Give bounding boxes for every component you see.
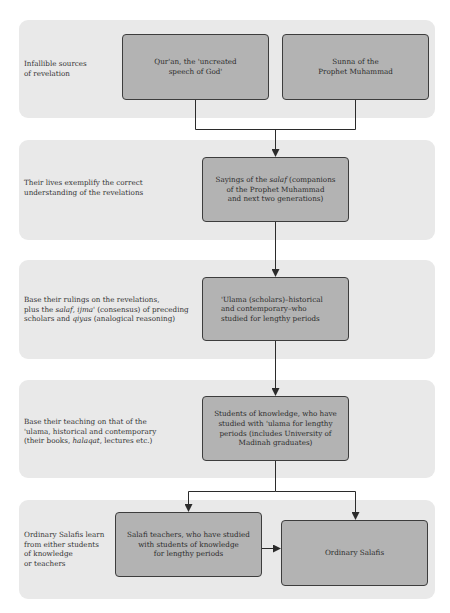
box-salaf-sayings: Sayings of the salaf (companions of the … (202, 157, 349, 222)
box-line: for lengthy periods (127, 549, 250, 559)
box-line: with students of knowledge (127, 540, 250, 550)
box-line: Qur'an, the 'uncreated (154, 57, 236, 67)
box-ordinary-salafis: Ordinary Salafis (281, 520, 428, 586)
box-line: studied with 'ulama for lengthy (214, 419, 337, 429)
label-line: (their books, halaqat, lectures etc.) (24, 436, 156, 446)
label-line: Base their rulings on the revelations, (24, 295, 189, 305)
label-line: or teachers (24, 559, 104, 569)
box-line: Sunna of the (318, 57, 393, 67)
label-line: from either students (24, 540, 104, 550)
label-line: 'ulama, historical and contemporary (24, 427, 156, 437)
label-line: Infallible sources (24, 59, 87, 69)
box-line: of the Prophet Muhammad (215, 185, 335, 195)
box-line: and next two generations) (215, 194, 335, 204)
tier-label-ordinary: Ordinary Salafis learn from either stude… (24, 530, 104, 568)
box-line: studied for lengthy periods (221, 314, 323, 324)
label-line: of knowledge (24, 549, 104, 559)
box-line: periods (includes University of (214, 429, 337, 439)
label-line: Ordinary Salafis learn (24, 530, 104, 540)
label-line: scholars and qiyas (analogical reasoning… (24, 314, 189, 324)
box-students-of-knowledge: Students of knowledge, who have studied … (202, 396, 349, 461)
label-line: plus the salaf, ijma' (consensus) of pre… (24, 305, 189, 315)
box-sunna: Sunna of the Prophet Muhammad (282, 34, 429, 100)
tier-label-salaf: Their lives exemplify the correct unders… (24, 178, 143, 197)
tier-label-revelation: Infallible sources of revelation (24, 59, 87, 78)
box-line: Salafi teachers, who have studied (127, 530, 250, 540)
box-line: Madinah graduates) (214, 438, 337, 448)
box-line: Prophet Muhammad (318, 67, 393, 77)
box-quran: Qur'an, the 'uncreated speech of God' (122, 34, 269, 100)
box-line: Ordinary Salafis (325, 548, 384, 558)
tier-label-ulama: Base their rulings on the revelations, p… (24, 295, 189, 324)
box-line: Sayings of the salaf (companions (215, 175, 335, 185)
tier-label-students: Base their teaching on that of the 'ulam… (24, 417, 156, 446)
box-ulama: 'Ulama (scholars)–historical and contemp… (202, 277, 349, 341)
label-line: understanding of the revelations (24, 188, 143, 198)
box-line: and contemporary–who (221, 304, 323, 314)
label-line: Base their teaching on that of the (24, 417, 156, 427)
box-line: speech of God' (154, 67, 236, 77)
box-line: 'Ulama (scholars)–historical (221, 295, 323, 305)
label-line: of revelation (24, 69, 87, 79)
label-line: Their lives exemplify the correct (24, 178, 143, 188)
box-salafi-teachers: Salafi teachers, who have studied with s… (115, 512, 262, 577)
box-line: Students of knowledge, who have (214, 409, 337, 419)
